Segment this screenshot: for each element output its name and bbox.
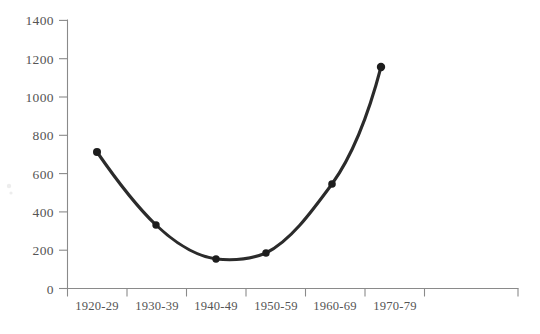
data-point-1960-69 <box>328 180 336 188</box>
y-tick-label-0: 0 <box>47 282 54 297</box>
x-tick-label-1940-49: 1940-49 <box>194 299 237 313</box>
data-series <box>93 63 385 263</box>
data-point-1950-59 <box>262 249 269 256</box>
y-axis: 0 200 400 600 800 1000 1200 1400 <box>25 13 67 296</box>
line-chart: 0 200 400 600 800 1000 1200 1400 1920-29… <box>0 0 540 334</box>
data-point-1930-39 <box>152 221 159 228</box>
y-tick-label-1000: 1000 <box>25 90 54 105</box>
chart-figure: 0 200 400 600 800 1000 1200 1400 1920-29… <box>0 0 540 334</box>
x-tick-label-1930-39: 1930-39 <box>135 299 178 313</box>
x-axis: 1920-29 1930-39 1940-49 1950-59 1960-69 … <box>68 289 519 314</box>
x-tick-label-1920-29: 1920-29 <box>75 299 118 313</box>
scan-artifact <box>7 184 11 188</box>
data-point-1970-79 <box>377 63 385 71</box>
y-tick-label-400: 400 <box>33 205 54 220</box>
scan-artifact <box>9 191 12 194</box>
y-tick-label-800: 800 <box>33 128 54 143</box>
y-tick-label-1200: 1200 <box>25 52 54 67</box>
x-tick-label-1960-69: 1960-69 <box>313 299 356 313</box>
data-point-1920-29 <box>93 148 101 156</box>
data-point-1940-49 <box>212 255 219 262</box>
y-tick-label-200: 200 <box>33 243 54 258</box>
y-tick-label-600: 600 <box>33 167 54 182</box>
y-tick-label-1400: 1400 <box>25 13 54 28</box>
x-tick-label-1970-79: 1970-79 <box>373 299 416 313</box>
x-tick-label-1950-59: 1950-59 <box>254 299 297 313</box>
data-line <box>97 67 381 260</box>
